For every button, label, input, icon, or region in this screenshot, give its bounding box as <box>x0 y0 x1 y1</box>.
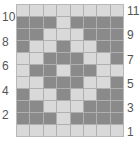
chart-cell-r5-c3 <box>44 77 56 88</box>
chart-cell-r10-c7 <box>97 17 109 28</box>
chart-cell-r10-c6 <box>84 17 96 28</box>
chart-cell-r4-c8 <box>111 89 123 100</box>
chart-cell-r10-c3 <box>44 17 56 28</box>
chart-cell-r3-c5 <box>71 101 83 112</box>
chart-cell-r3-c3 <box>44 101 56 112</box>
chart-cell-r8-c8 <box>111 41 123 52</box>
chart-cell-r8-c4 <box>57 41 69 52</box>
chart-cell-r7-c3 <box>44 53 56 64</box>
chart-cell-r2-c7 <box>97 113 109 124</box>
row-label-5: 5 <box>127 78 134 90</box>
chart-cell-r1-c6 <box>84 125 96 136</box>
chart-cell-r2-c4 <box>57 113 69 124</box>
row-label-9: 9 <box>127 29 134 41</box>
chart-cell-r3-c2 <box>30 101 42 112</box>
chart-cell-r1-c2 <box>30 125 42 136</box>
row-label-11: 11 <box>127 5 139 17</box>
chart-cell-r11-c3 <box>44 5 56 16</box>
chart-cell-r11-c6 <box>84 5 96 16</box>
chart-cell-r7-c8 <box>111 53 123 64</box>
chart-cell-r5-c2 <box>30 77 42 88</box>
chart-cell-r8-c2 <box>30 41 42 52</box>
chart-cell-r5-c7 <box>97 77 109 88</box>
chart-cell-r1-c4 <box>57 125 69 136</box>
chart-cell-r3-c1 <box>17 101 29 112</box>
chart-cell-r6-c4 <box>57 65 69 76</box>
chart-cell-r7-c7 <box>97 53 109 64</box>
chart-cell-r8-c3 <box>44 41 56 52</box>
chart-cell-r11-c8 <box>111 5 123 16</box>
chart-cell-r11-c5 <box>71 5 83 16</box>
chart-cell-r7-c4 <box>57 53 69 64</box>
chart-cell-r2-c2 <box>30 113 42 124</box>
chart-cell-r4-c1 <box>17 89 29 100</box>
chart-cell-r3-c7 <box>97 101 109 112</box>
chart-cell-r9-c5 <box>71 29 83 40</box>
chart-cell-r11-c1 <box>17 5 29 16</box>
chart-cell-r5-c8 <box>111 77 123 88</box>
row-label-1: 1 <box>127 126 134 138</box>
row-label-10: 10 <box>2 11 15 23</box>
chart-cell-r9-c3 <box>44 29 56 40</box>
chart-cell-r1-c1 <box>17 125 29 136</box>
chart-cell-r8-c6 <box>84 41 96 52</box>
chart-cell-r9-c2 <box>30 29 42 40</box>
chart-cell-r6-c8 <box>111 65 123 76</box>
row-label-6: 6 <box>2 60 9 72</box>
chart-cell-r6-c2 <box>30 65 42 76</box>
chart-cell-r2-c5 <box>71 113 83 124</box>
chart-cell-r10-c5 <box>71 17 83 28</box>
chart-cell-r7-c6 <box>84 53 96 64</box>
chart-cell-r7-c5 <box>71 53 83 64</box>
chart-cell-r3-c8 <box>111 101 123 112</box>
chart-cell-r4-c3 <box>44 89 56 100</box>
chart-cell-r2-c3 <box>44 113 56 124</box>
chart-cell-r2-c1 <box>17 113 29 124</box>
chart-cell-r11-c7 <box>97 5 109 16</box>
chart-cell-r1-c3 <box>44 125 56 136</box>
chart-cell-r2-c8 <box>111 113 123 124</box>
chart-cell-r5-c4 <box>57 77 69 88</box>
chart-cell-r7-c2 <box>30 53 42 64</box>
chart-cell-r10-c4 <box>57 17 69 28</box>
chart-cell-r4-c7 <box>97 89 109 100</box>
row-label-2: 2 <box>2 109 9 121</box>
chart-cell-r6-c7 <box>97 65 109 76</box>
chart-cell-r5-c5 <box>71 77 83 88</box>
chart-cell-r4-c2 <box>30 89 42 100</box>
chart-cell-r9-c6 <box>84 29 96 40</box>
chart-cell-r4-c4 <box>57 89 69 100</box>
chart-cell-r6-c1 <box>17 65 29 76</box>
row-label-8: 8 <box>2 36 9 48</box>
chart-cell-r6-c5 <box>71 65 83 76</box>
chart-cell-r3-c6 <box>84 101 96 112</box>
row-label-7: 7 <box>127 54 134 66</box>
pattern-chart-grid <box>16 4 124 137</box>
chart-cell-r11-c4 <box>57 5 69 16</box>
chart-cell-r1-c7 <box>97 125 109 136</box>
chart-cell-r2-c6 <box>84 113 96 124</box>
chart-cell-r1-c5 <box>71 125 83 136</box>
chart-cell-r4-c6 <box>84 89 96 100</box>
chart-cell-r5-c1 <box>17 77 29 88</box>
chart-cell-r9-c7 <box>97 29 109 40</box>
chart-cell-r11-c2 <box>30 5 42 16</box>
row-label-4: 4 <box>2 85 9 97</box>
chart-cell-r9-c4 <box>57 29 69 40</box>
chart-cell-r10-c1 <box>17 17 29 28</box>
chart-cell-r6-c6 <box>84 65 96 76</box>
chart-cell-r10-c2 <box>30 17 42 28</box>
chart-cell-r7-c1 <box>17 53 29 64</box>
chart-cell-r9-c1 <box>17 29 29 40</box>
chart-cell-r8-c7 <box>97 41 109 52</box>
row-label-3: 3 <box>127 102 134 114</box>
chart-cell-r6-c3 <box>44 65 56 76</box>
chart-cell-r4-c5 <box>71 89 83 100</box>
chart-cell-r3-c4 <box>57 101 69 112</box>
chart-cell-r5-c6 <box>84 77 96 88</box>
chart-cell-r10-c8 <box>111 17 123 28</box>
chart-cell-r1-c8 <box>111 125 123 136</box>
chart-cell-r8-c1 <box>17 41 29 52</box>
chart-cell-r9-c8 <box>111 29 123 40</box>
chart-cell-r8-c5 <box>71 41 83 52</box>
